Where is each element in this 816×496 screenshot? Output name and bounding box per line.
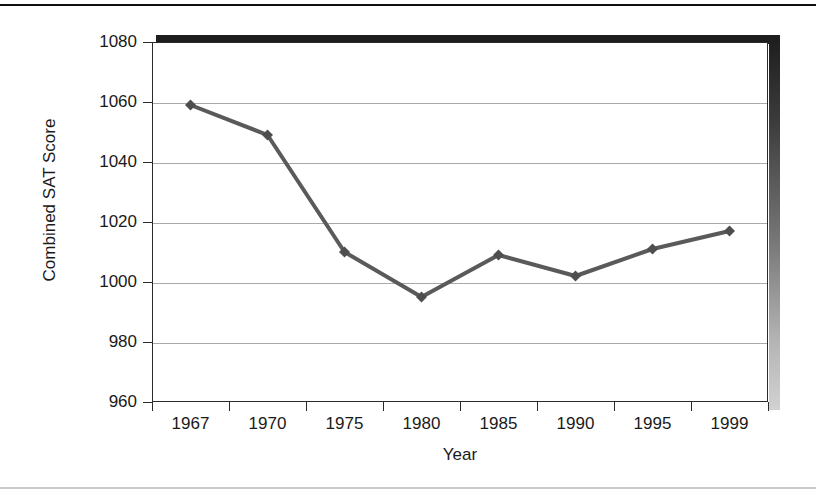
x-axis-tick-label: 1990	[541, 414, 611, 434]
x-axis-tick-label: 1985	[464, 414, 534, 434]
y-axis-tick	[143, 102, 152, 103]
x-axis-tick	[306, 402, 307, 411]
y-axis-tick-label: 1080	[45, 33, 137, 50]
x-axis-tick	[614, 402, 615, 411]
x-axis-tick-label: 1975	[310, 414, 380, 434]
x-axis-tick-label: 1999	[695, 414, 765, 434]
y-axis-tick	[143, 342, 152, 343]
data-point-marker	[724, 226, 735, 237]
y-axis-tick-label: 960	[45, 393, 137, 410]
x-axis-tick	[152, 402, 153, 411]
y-axis-tick	[143, 222, 152, 223]
x-axis-tick	[229, 402, 230, 411]
y-axis-title: Combined SAT Score	[40, 60, 60, 340]
y-axis-tick	[143, 42, 152, 43]
x-axis-tick-label: 1980	[387, 414, 457, 434]
x-axis-tick	[537, 402, 538, 411]
page-top-rule	[0, 4, 816, 6]
y-axis-tick	[143, 162, 152, 163]
page-bottom-rule	[0, 487, 816, 489]
x-axis-tick	[383, 402, 384, 411]
y-axis-tick	[143, 402, 152, 403]
data-series-line	[152, 42, 768, 402]
x-axis-tick	[460, 402, 461, 411]
x-axis-tick	[691, 402, 692, 411]
x-axis-tick-label: 1967	[156, 414, 226, 434]
x-axis-tick	[768, 402, 769, 411]
plot-shadow-right	[769, 35, 780, 410]
x-axis-title: Year	[320, 445, 600, 465]
chart-figure: 10801060104010201000980960 1967197019751…	[0, 0, 816, 496]
data-point-marker	[570, 271, 581, 282]
data-point-marker	[647, 244, 658, 255]
x-axis-tick-label: 1970	[233, 414, 303, 434]
x-axis-tick-label: 1995	[618, 414, 688, 434]
data-point-marker	[185, 100, 196, 111]
y-axis-tick	[143, 282, 152, 283]
